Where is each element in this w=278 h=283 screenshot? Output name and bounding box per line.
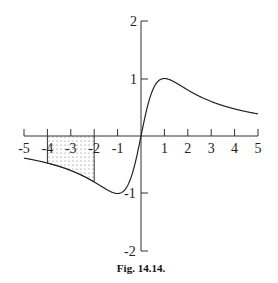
x-tick-label: -1 [112,141,124,156]
y-label-neg2: -2 [124,244,136,259]
x-tick-label: 4 [231,141,238,156]
x-tick-label: -3 [65,141,77,156]
x-tick-label: 3 [208,141,215,156]
x-tick-label: 2 [184,141,191,156]
x-tick-label: 5 [255,141,262,156]
y-label-2: 2 [130,14,137,29]
x-tick-label: -4 [42,141,54,156]
x-tick-label: -5 [18,141,30,156]
x-tick-label: -2 [88,141,100,156]
figure-caption: Fig. 14.14. [117,262,166,274]
x-tick-label: 1 [161,141,168,156]
chart: 2 1 -1 -2 -5-4-3-2-112345 Fig. 14.14. [0,0,278,283]
y-label-1: 1 [130,72,137,87]
